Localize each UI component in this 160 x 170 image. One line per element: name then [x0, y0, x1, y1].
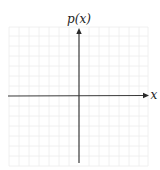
coordinate-plane: p(x) x	[0, 0, 160, 170]
y-axis-arrow-icon	[76, 28, 81, 34]
x-axis-label: x	[151, 88, 158, 102]
y-axis-label: p(x)	[67, 12, 91, 26]
